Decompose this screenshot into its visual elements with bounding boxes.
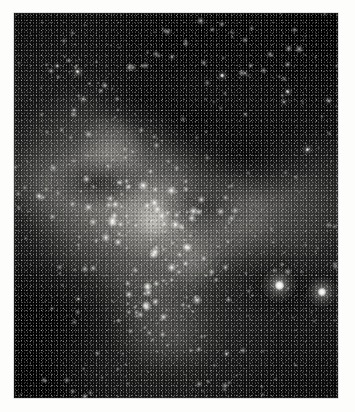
star-field-photograph [14,13,338,398]
caption-area [0,399,355,412]
plate-edge [14,13,338,398]
photograph-page [0,0,355,412]
